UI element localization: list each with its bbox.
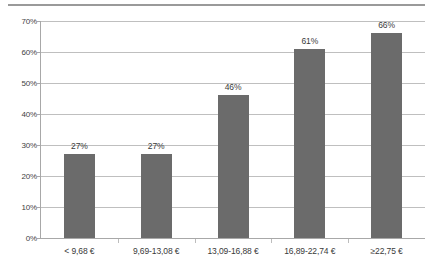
y-axis-tick-mark: [37, 21, 41, 22]
y-axis-tick-mark: [37, 207, 41, 208]
x-axis-tick-label: < 9,68 €: [64, 246, 94, 256]
gridline: [41, 52, 425, 53]
y-axis-labels: 0%10%20%30%40%50%60%70%: [0, 0, 37, 267]
y-axis-tick-label: 10%: [22, 203, 37, 212]
bar[interactable]: [141, 154, 172, 238]
x-axis-tick-label: ≥22,75 €: [370, 246, 402, 256]
y-axis-tick-label: 40%: [22, 110, 37, 119]
y-axis-tick-mark: [37, 145, 41, 146]
bar-value-label: 61%: [301, 36, 318, 46]
plot-area: [41, 21, 425, 238]
x-axis-tick-mark: [118, 239, 119, 243]
y-axis-tick-mark: [37, 83, 41, 84]
bar-value-label: 27%: [71, 141, 88, 151]
bar[interactable]: [218, 95, 249, 238]
x-axis-tick-mark: [195, 239, 196, 243]
bar[interactable]: [64, 154, 95, 238]
y-axis-tick-mark: [37, 114, 41, 115]
bar-chart-figure: 0%10%20%30%40%50%60%70% 27%< 9,68 €27%9,…: [0, 0, 437, 267]
y-axis-tick-mark: [37, 52, 41, 53]
y-axis-tick-label: 30%: [22, 141, 37, 150]
bar-value-label: 27%: [148, 141, 165, 151]
bar[interactable]: [294, 49, 325, 238]
x-axis-tick-label: 13,09-16,88 €: [207, 246, 258, 256]
bar-value-label: 66%: [378, 20, 395, 30]
y-axis-tick-label: 60%: [22, 48, 37, 57]
y-axis-tick-label: 70%: [22, 17, 37, 26]
bar[interactable]: [371, 33, 402, 238]
y-axis-tick-label: 0%: [26, 234, 37, 243]
x-axis-tick-mark: [348, 239, 349, 243]
gridline: [41, 238, 425, 239]
x-axis-tick-label: 9,69-13,08 €: [133, 246, 180, 256]
gridline: [41, 21, 425, 22]
bar-value-label: 46%: [225, 82, 242, 92]
x-axis-tick-label: 16,89-22,74 €: [284, 246, 335, 256]
x-axis-tick-mark: [271, 239, 272, 243]
y-axis-tick-label: 20%: [22, 172, 37, 181]
y-axis-tick-mark: [37, 238, 41, 239]
y-axis-tick-mark: [37, 176, 41, 177]
y-axis-tick-label: 50%: [22, 79, 37, 88]
